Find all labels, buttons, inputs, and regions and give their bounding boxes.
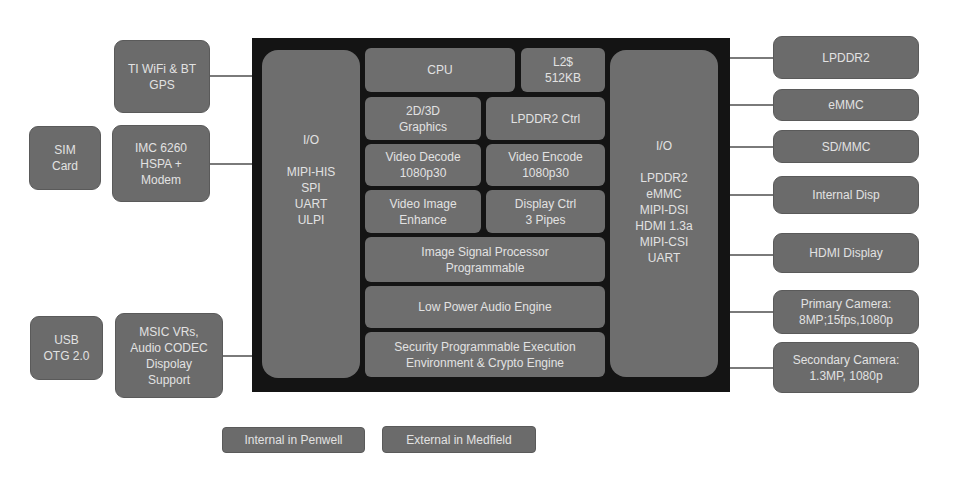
lpddr2-ctrl-block: LPDDR2 Ctrl bbox=[486, 97, 605, 140]
display-ctrl-label: Display Ctrl bbox=[515, 196, 576, 212]
lpddr2-box: LPDDR2 bbox=[773, 36, 919, 79]
secondary-camera-spec: 1.3MP, 1080p bbox=[809, 368, 882, 384]
legend-external-label: External in Medfield bbox=[406, 432, 511, 448]
connector-internal-disp bbox=[730, 194, 773, 196]
video-decode-spec: 1080p30 bbox=[400, 165, 447, 181]
hdmi-display-box: HDMI Display bbox=[773, 233, 919, 273]
connector-primary-camera bbox=[730, 311, 773, 313]
usb-otg-box: USB OTG 2.0 bbox=[30, 316, 103, 380]
display-ctrl-spec: 3 Pipes bbox=[525, 212, 565, 228]
usb-label-2: OTG 2.0 bbox=[43, 348, 89, 364]
left-io-item: MIPI-HIS bbox=[287, 164, 336, 180]
graphics-label-2: Graphics bbox=[399, 119, 447, 135]
primary-camera-label: Primary Camera: bbox=[801, 296, 892, 312]
video-encode-label: Video Encode bbox=[508, 149, 583, 165]
cpu-label: CPU bbox=[427, 62, 452, 78]
primary-camera-spec: 8MP;15fps,1080p bbox=[799, 312, 893, 328]
security-label-2: Environment & Crypto Engine bbox=[406, 355, 564, 371]
security-label: Security Programmable Execution bbox=[394, 339, 575, 355]
left-io-item: UART bbox=[295, 196, 327, 212]
l2-cache-block: L2$ 512KB bbox=[521, 48, 605, 92]
internal-disp-box: Internal Disp bbox=[773, 176, 919, 214]
video-encode-spec: 1080p30 bbox=[522, 165, 569, 181]
isp-label: Image Signal Processor bbox=[421, 244, 548, 260]
right-io-title: I/O bbox=[656, 138, 672, 154]
wifi-bt-gps-box: TI WiFi & BT GPS bbox=[114, 40, 210, 113]
l2-size: 512KB bbox=[545, 70, 581, 86]
connector-lpddr2 bbox=[730, 57, 773, 59]
connector-secondary-camera bbox=[730, 367, 773, 369]
modem-label: IMC 6260 bbox=[135, 140, 187, 156]
video-enhance-block: Video Image Enhance bbox=[365, 190, 481, 233]
sim-label: SIM bbox=[54, 142, 75, 158]
sdmmc-box: SD/MMC bbox=[773, 130, 919, 163]
right-io-block: I/O LPDDR2 eMMC MIPI-DSI HDMI 1.3a MIPI-… bbox=[610, 50, 718, 377]
audio-engine-label: Low Power Audio Engine bbox=[418, 299, 551, 315]
left-io-item: SPI bbox=[301, 180, 320, 196]
isp-block: Image Signal Processor Programmable bbox=[365, 237, 605, 282]
secondary-camera-box: Secondary Camera: 1.3MP, 1080p bbox=[773, 342, 919, 393]
l2-label: L2$ bbox=[553, 54, 573, 70]
left-io-item: ULPI bbox=[298, 212, 325, 228]
usb-label: USB bbox=[54, 332, 79, 348]
msic-label-2: Audio CODEC bbox=[130, 340, 207, 356]
msic-box: MSIC VRs, Audio CODEC Dispolay Support bbox=[115, 313, 223, 398]
connector-msic bbox=[222, 355, 252, 357]
video-encode-block: Video Encode 1080p30 bbox=[486, 144, 605, 186]
emmc-box: eMMC bbox=[773, 89, 919, 121]
left-io-title: I/O bbox=[303, 132, 319, 148]
primary-camera-box: Primary Camera: 8MP;15fps,1080p bbox=[773, 290, 919, 334]
legend-external: External in Medfield bbox=[382, 426, 536, 453]
isp-label-2: Programmable bbox=[446, 260, 525, 276]
security-engine-block: Security Programmable Execution Environm… bbox=[365, 332, 605, 377]
graphics-block: 2D/3D Graphics bbox=[365, 97, 481, 140]
connector-emmc bbox=[730, 104, 773, 106]
video-decode-block: Video Decode 1080p30 bbox=[365, 144, 481, 186]
video-enhance-label: Video Image bbox=[389, 196, 456, 212]
wifi-label: TI WiFi & BT bbox=[128, 61, 196, 77]
video-decode-label: Video Decode bbox=[385, 149, 460, 165]
secondary-camera-label: Secondary Camera: bbox=[793, 352, 900, 368]
right-io-item: MIPI-CSI bbox=[640, 234, 689, 250]
connector-wifi bbox=[210, 75, 252, 77]
right-io-item: eMMC bbox=[646, 186, 681, 202]
right-io-item: MIPI-DSI bbox=[640, 202, 689, 218]
graphics-label: 2D/3D bbox=[406, 103, 440, 119]
left-io-block: I/O MIPI-HIS SPI UART ULPI bbox=[262, 50, 360, 378]
right-io-item: LPDDR2 bbox=[640, 170, 687, 186]
sdmmc-label: SD/MMC bbox=[822, 139, 871, 155]
hdmi-display-label: HDMI Display bbox=[809, 245, 882, 261]
legend-internal-label: Internal in Penwell bbox=[244, 432, 342, 448]
msic-label: MSIC VRs, bbox=[139, 324, 198, 340]
right-io-item: UART bbox=[648, 250, 680, 266]
modem-box: IMC 6260 HSPA + Modem bbox=[112, 125, 210, 202]
emmc-label: eMMC bbox=[828, 97, 863, 113]
msic-label-4: Support bbox=[148, 372, 190, 388]
legend-internal: Internal in Penwell bbox=[222, 427, 365, 453]
lpddr2-label: LPDDR2 bbox=[822, 50, 869, 66]
lpddr2-ctrl-label: LPDDR2 Ctrl bbox=[511, 111, 580, 127]
audio-engine-block: Low Power Audio Engine bbox=[365, 286, 605, 328]
cpu-block: CPU bbox=[365, 48, 515, 92]
right-io-item: HDMI 1.3a bbox=[635, 218, 692, 234]
display-ctrl-block: Display Ctrl 3 Pipes bbox=[486, 190, 605, 233]
connector-sdmmc bbox=[730, 146, 773, 148]
connector-hdmi-display bbox=[730, 254, 773, 256]
modem-label-2: HSPA + bbox=[140, 156, 181, 172]
modem-label-3: Modem bbox=[141, 172, 181, 188]
sim-label-2: Card bbox=[52, 158, 78, 174]
connector-modem bbox=[210, 163, 252, 165]
gps-label: GPS bbox=[149, 77, 174, 93]
sim-card-box: SIM Card bbox=[29, 126, 101, 190]
msic-label-3: Dispolay bbox=[146, 356, 192, 372]
video-enhance-label-2: Enhance bbox=[399, 212, 446, 228]
internal-disp-label: Internal Disp bbox=[812, 187, 879, 203]
